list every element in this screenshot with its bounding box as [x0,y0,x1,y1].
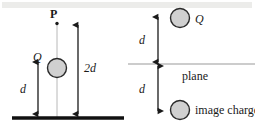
physics-figure: P Q d 2d Q d d plane image charge [0,0,255,128]
field-point-marker [55,22,58,25]
label-distance-d-below: d [139,83,145,95]
label-image-charge: image charge [195,104,255,116]
label-charge-q: Q [33,51,42,63]
label-distance-d-above: d [139,34,145,46]
label-point-p: P [50,8,57,20]
charge-sphere-above [171,9,190,28]
image-charge-sphere [171,101,190,120]
label-plane: plane [182,70,208,82]
label-distance-d: d [20,83,26,95]
charge-sphere [48,59,67,78]
label-charge-q-above: Q [195,13,204,25]
label-distance-2d: 2d [84,62,96,74]
